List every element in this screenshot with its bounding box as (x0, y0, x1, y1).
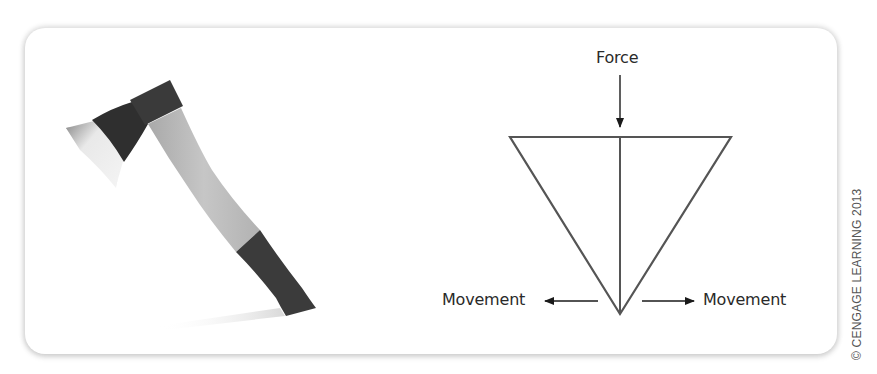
movement-label-left: Movement (442, 290, 525, 309)
shadow (158, 308, 285, 330)
handle (148, 108, 260, 252)
force-label: Force (596, 48, 638, 67)
copyright-credit: © CENGAGE LEARNING 2013 (850, 189, 864, 361)
movement-label-right: Movement (703, 290, 786, 309)
hatchet-illustration (40, 50, 360, 350)
grip (236, 230, 316, 316)
